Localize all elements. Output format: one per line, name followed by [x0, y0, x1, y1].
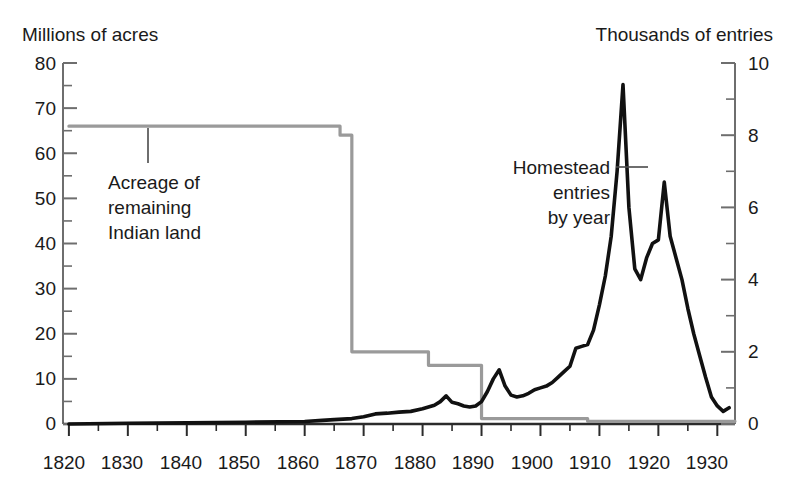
series-acreage-of-remaining-indian-land	[69, 126, 735, 421]
series-homestead-entries-by-year	[69, 85, 729, 424]
annotation-leader-lines	[148, 128, 648, 167]
plot-area	[0, 0, 789, 491]
series-group	[69, 85, 735, 424]
chart-figure: Millions of acres Thousands of entries 8…	[0, 0, 789, 491]
